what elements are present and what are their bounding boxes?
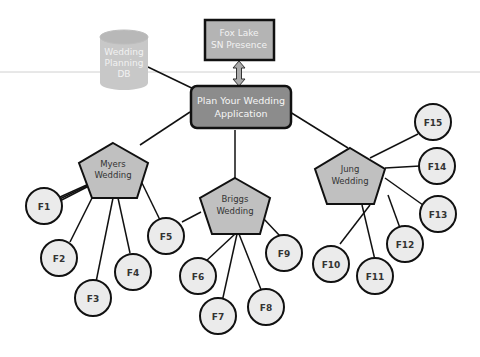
svg-text:F2: F2 [53,254,65,264]
svg-text:F12: F12 [396,240,415,250]
feature-f12: F12 [387,226,423,262]
svg-text:F14: F14 [428,162,447,172]
jung-label-line1: Jung [340,164,360,174]
svg-text:F10: F10 [322,260,341,270]
jung-label-line2: Wedding [331,176,368,186]
plan-your-wedding-app: Plan Your Wedding Application [191,86,291,128]
sn-label-line2: SN Presence [211,40,267,50]
feature-f14: F14 [419,148,455,184]
svg-text:F3: F3 [87,294,99,304]
feature-f4: F4 [115,254,151,290]
db-label-line1: Wedding [104,47,143,57]
feature-f7: F7 [200,298,236,334]
briggs-wedding-node: Briggs Wedding [200,178,270,234]
fox-lake-sn-box: Fox Lake SN Presence [205,20,274,60]
feature-f2: F2 [41,240,77,276]
svg-text:F1: F1 [38,202,50,212]
myers-label-line1: Myers [100,159,126,169]
sn-label-line1: Fox Lake [219,28,259,38]
svg-text:F15: F15 [424,118,443,128]
app-label-line1: Plan Your Wedding [197,95,285,106]
feature-f10: F10 [313,246,349,282]
wedding-planning-db: Wedding Planning DB [100,30,148,90]
svg-text:F11: F11 [366,272,385,282]
svg-text:F8: F8 [260,303,272,313]
briggs-label-line2: Wedding [216,206,253,216]
briggs-label-line1: Briggs [222,194,249,204]
myers-label-line2: Wedding [94,170,131,180]
myers-wedding-node: Myers Wedding [79,143,148,198]
svg-text:F7: F7 [212,312,224,322]
double-arrow-icon [233,61,245,86]
svg-text:F6: F6 [192,272,204,282]
feature-f13: F13 [420,196,456,232]
svg-text:F13: F13 [429,210,448,220]
feature-f1: F1 [26,188,62,224]
feature-f11: F11 [357,258,393,294]
app-label-line2: Application [214,108,267,119]
feature-f8: F8 [248,289,284,325]
feature-f3: F3 [75,280,111,316]
wedding-diagram: Wedding Planning DB Fox Lake SN Presence… [0,0,480,357]
feature-f5: F5 [148,218,184,254]
db-label-line3: DB [117,69,130,79]
feature-f15: F15 [415,104,451,140]
feature-f6: F6 [180,258,216,294]
svg-text:F4: F4 [127,268,139,278]
svg-text:F9: F9 [278,249,290,259]
svg-text:F5: F5 [160,232,172,242]
db-label-line2: Planning [105,58,144,68]
feature-f9: F9 [266,235,302,271]
